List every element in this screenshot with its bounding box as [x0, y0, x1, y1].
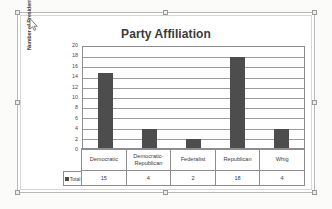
- category-label-line: Whig: [276, 156, 289, 163]
- bar-slot: [171, 47, 215, 149]
- y-axis-tick-label: 2: [75, 137, 78, 142]
- data-table-category-cell: Republican: [215, 148, 261, 171]
- y-axis-tick-label: 8: [75, 106, 78, 111]
- bar-slot: [127, 47, 171, 149]
- category-label-line: Republican: [133, 160, 163, 167]
- bar-slot: [216, 47, 260, 149]
- y-axis-tick-label: 18: [72, 54, 78, 59]
- bar-slot: [83, 47, 127, 149]
- series-name-label: Total: [70, 176, 81, 182]
- data-table-corner-cell: [63, 148, 82, 171]
- resize-handle-top-right[interactable]: [312, 10, 317, 15]
- category-label-line: Republican: [224, 156, 252, 163]
- plot-area: [82, 46, 305, 150]
- data-table-value-cell: 18: [215, 170, 261, 186]
- resize-handle-top-center[interactable]: [163, 10, 168, 15]
- chart-data-table: DemocraticDemocratic-RepublicanFederalis…: [63, 148, 305, 186]
- resize-handle-middle-right[interactable]: [312, 100, 317, 105]
- data-table-category-cell: Federalist: [170, 148, 216, 171]
- data-table-value-row: Total 1542184: [63, 171, 305, 186]
- chart-object[interactable]: Party Affiliation Number of Presidents 2…: [17, 12, 315, 193]
- data-table-category-cell: Democratic-Republican: [126, 148, 172, 171]
- resize-handle-bottom-left[interactable]: [15, 190, 20, 195]
- resize-handle-middle-left[interactable]: [15, 100, 20, 105]
- data-table-value-cell: 4: [259, 170, 305, 186]
- y-axis-tick-labels: 20181614121086420: [63, 46, 80, 150]
- y-axis-tick-label: 4: [75, 126, 78, 131]
- y-axis-tick-label: 16: [72, 64, 78, 69]
- data-table-value-cell: 4: [126, 170, 172, 186]
- data-table-value-cell: 15: [81, 170, 127, 186]
- bar[interactable]: [142, 129, 157, 149]
- category-label-line: Federalist: [181, 156, 206, 163]
- y-axis-tick-label: 20: [72, 43, 78, 48]
- y-axis-tick-label: 14: [72, 74, 78, 79]
- y-axis-tick-label: 10: [72, 95, 78, 100]
- data-table-category-cell: Democratic: [81, 148, 127, 171]
- y-axis-tick-label: 12: [72, 85, 78, 90]
- mouse-pointer-icon: [29, 18, 38, 31]
- resize-handle-bottom-right[interactable]: [312, 190, 317, 195]
- data-table-series-key: Total: [63, 171, 82, 186]
- resize-handle-top-left[interactable]: [15, 10, 20, 15]
- resize-handle-bottom-center[interactable]: [163, 190, 168, 195]
- y-axis-tick-label: 6: [75, 116, 78, 121]
- bar[interactable]: [230, 57, 245, 149]
- y-axis-title: Number of Presidents: [24, 0, 34, 71]
- data-table-value-cell: 2: [170, 170, 216, 186]
- bar[interactable]: [274, 129, 289, 149]
- data-table-category-cell: Whig: [259, 148, 305, 171]
- bar[interactable]: [98, 73, 113, 150]
- plot-wrapper: 20181614121086420: [63, 46, 305, 150]
- category-label-line: Democratic-: [133, 153, 163, 160]
- bar-slot: [260, 47, 304, 149]
- data-table-category-row: DemocraticDemocratic-RepublicanFederalis…: [63, 148, 305, 171]
- bar-series-total: [83, 47, 304, 149]
- category-label-line: Democratic: [90, 156, 118, 163]
- legend-swatch-icon: [65, 177, 69, 181]
- chart-title: Party Affiliation: [18, 27, 314, 41]
